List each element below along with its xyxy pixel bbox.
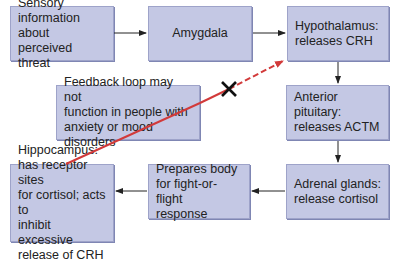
blocked-x-icon bbox=[222, 82, 236, 96]
feedback-line-hippocampus-to-hypothalamus bbox=[66, 61, 283, 164]
